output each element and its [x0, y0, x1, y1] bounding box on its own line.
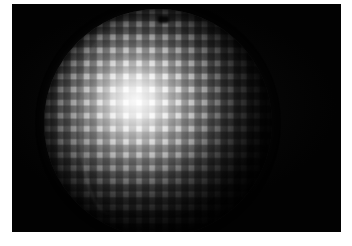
photo-page	[0, 0, 352, 246]
sphere-pole-notch	[158, 16, 169, 23]
sphere	[44, 9, 272, 232]
photograph-plate	[12, 4, 341, 232]
sphere-terminator-shadow	[44, 9, 272, 232]
